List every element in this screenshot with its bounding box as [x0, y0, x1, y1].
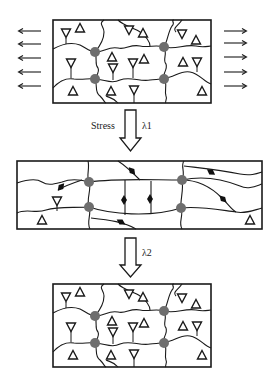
stage2-chains: [17, 161, 262, 229]
diagram-canvas: [0, 0, 274, 386]
lambda1-label: λ1: [142, 120, 152, 131]
lambda2-label: λ2: [142, 247, 152, 258]
stage1-network: [19, 20, 247, 103]
stage1-side-groups: [62, 24, 207, 104]
stage3-network: [53, 284, 211, 367]
stress-arrow: [120, 110, 141, 151]
left-pull-arrows: [19, 29, 42, 89]
stage2-diamonds: [55, 165, 228, 227]
relax-arrow: [120, 238, 141, 277]
stage3-side-groups: [62, 288, 207, 368]
right-pull-arrows: [224, 29, 247, 89]
stage3-crosslinks: [90, 306, 169, 348]
stage1-crosslinks: [90, 42, 169, 84]
stress-label: Stress: [91, 120, 115, 131]
stage2-network: [17, 161, 262, 229]
